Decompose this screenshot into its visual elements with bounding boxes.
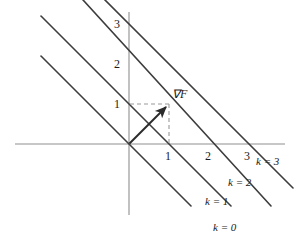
level-curve-k1 bbox=[41, 16, 231, 206]
y-tick-label-2: 2 bbox=[114, 58, 120, 70]
y-tick-label-1: 1 bbox=[114, 98, 120, 110]
level-curve-k0 bbox=[41, 56, 191, 206]
level-curve-label-k3: k = 3 bbox=[256, 156, 279, 167]
gradient-vector-label: ∇F bbox=[172, 88, 187, 100]
level-curve-label-k2: k = 2 bbox=[228, 177, 251, 188]
figure-canvas: 1 2 3 1 2 3 ∇F k = 3 k = 2 k = 1 k = 0 bbox=[0, 0, 303, 241]
level-curve-label-k0: k = 0 bbox=[213, 222, 236, 233]
gradient-vector-arrow bbox=[130, 107, 167, 144]
x-tick-label-3: 3 bbox=[244, 150, 250, 162]
x-tick-label-1: 1 bbox=[165, 150, 171, 162]
y-tick-label-3: 3 bbox=[114, 18, 120, 30]
level-curves-plot bbox=[0, 0, 303, 241]
level-curve-label-k1: k = 1 bbox=[205, 196, 228, 207]
level-curves-group bbox=[41, 0, 293, 206]
x-tick-label-2: 2 bbox=[205, 150, 211, 162]
